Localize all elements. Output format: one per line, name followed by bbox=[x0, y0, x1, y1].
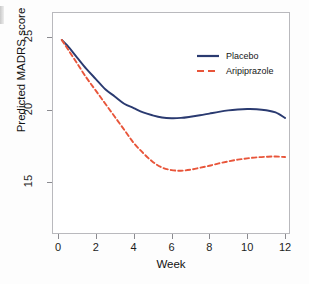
legend-key-solid-line bbox=[196, 51, 220, 61]
x-tick-label: 10 bbox=[232, 241, 262, 253]
x-tick-label: 2 bbox=[81, 241, 111, 253]
chart-curves bbox=[52, 12, 290, 234]
y-tick-label: 15 bbox=[22, 169, 34, 193]
x-tick-mark bbox=[172, 234, 173, 239]
legend: Placebo Aripiprazole bbox=[196, 50, 274, 80]
x-tick-label: 8 bbox=[194, 241, 224, 253]
x-tick-mark bbox=[96, 234, 97, 239]
x-tick-mark bbox=[134, 234, 135, 239]
x-tick-label: 0 bbox=[43, 241, 73, 253]
legend-label-aripiprazole: Aripiprazole bbox=[226, 66, 274, 76]
chart-figure: 252015 024681012 Predicted MADRS score W… bbox=[0, 0, 309, 284]
x-tick-label: 6 bbox=[157, 241, 187, 253]
x-axis-title: Week bbox=[52, 258, 290, 270]
x-tick-mark bbox=[247, 234, 248, 239]
legend-key-dashed-line bbox=[196, 66, 220, 76]
y-tick-mark bbox=[47, 110, 52, 111]
x-tick-mark bbox=[58, 234, 59, 239]
legend-item-aripiprazole: Aripiprazole bbox=[196, 65, 274, 77]
y-axis-title: Predicted MADRS score bbox=[15, 5, 27, 135]
x-tick-label: 4 bbox=[119, 241, 149, 253]
x-tick-mark bbox=[285, 234, 286, 239]
scan-edge-artifact bbox=[0, 6, 4, 24]
legend-label-placebo: Placebo bbox=[226, 51, 259, 61]
x-tick-mark bbox=[209, 234, 210, 239]
y-tick-mark bbox=[47, 37, 52, 38]
y-tick-mark bbox=[47, 182, 52, 183]
x-tick-label: 12 bbox=[270, 241, 300, 253]
legend-item-placebo: Placebo bbox=[196, 50, 274, 62]
